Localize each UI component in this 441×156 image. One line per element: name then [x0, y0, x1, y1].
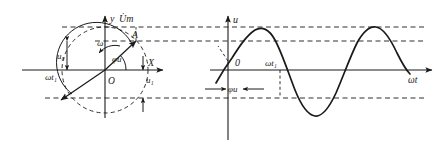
technical-figure: y X O U̇m A ω ωt₁ φu u₀ u₁ u 0 ωt₁ φu ωt	[0, 0, 441, 156]
rotation-angle-arc	[57, 22, 133, 94]
initial-value-connector	[218, 46, 228, 61]
wave-u-axis-label: u	[233, 14, 238, 25]
y-axis-label: y	[109, 13, 115, 24]
figure-container: y X O U̇m A ω ωt₁ φu u₀ u₁ u 0 ωt₁ φu ωt	[0, 0, 441, 156]
sine-wave-curve	[216, 27, 410, 116]
rotation-angle-label: ωt₁	[45, 72, 57, 82]
omega-label: ω	[97, 38, 103, 48]
point-a-label: A	[131, 30, 138, 40]
wt-axis-label: ωt	[408, 75, 418, 85]
phase-angle-label: φu	[112, 54, 122, 64]
phasor-diagram	[22, 16, 163, 118]
wt1-label: ωt₁	[265, 58, 277, 68]
u1-label: u₁	[146, 75, 154, 85]
u0-label: u₀	[57, 51, 65, 61]
wave-origin-label: 0	[235, 57, 240, 68]
phasor-magnitude-label: U̇m	[119, 13, 133, 24]
initial-phasor-vector	[61, 70, 105, 100]
origin-label: O	[108, 76, 115, 86]
waveform-diagram	[205, 16, 432, 140]
wave-phase-label: φu	[228, 84, 238, 94]
x-axis-label: X	[147, 57, 155, 68]
